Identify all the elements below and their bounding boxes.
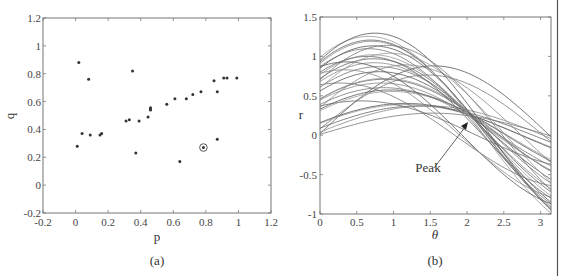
x-tick-label: 1 <box>391 216 397 228</box>
data-point <box>77 61 80 64</box>
data-point <box>199 90 202 93</box>
data-point <box>222 76 225 79</box>
data-point <box>191 93 194 96</box>
y-tick-label: 1 <box>312 50 318 62</box>
line-plot-b: 00.511.522.53-1-0.500.511.5 Peak θ r (b) <box>299 11 551 268</box>
plot-area-a <box>43 18 271 213</box>
caption-b: (b) <box>427 253 442 268</box>
data-point <box>178 160 181 163</box>
x-tick-label: 0.5 <box>350 216 364 228</box>
data-point <box>125 120 128 123</box>
x-tick-label: 1.2 <box>264 216 278 228</box>
x-tick-label: 0.8 <box>199 216 213 228</box>
y-tick-label: 0.8 <box>27 68 41 80</box>
y-tick-label: -1 <box>308 208 317 220</box>
x-tick-label: 3 <box>538 216 544 228</box>
data-point <box>165 103 168 106</box>
y-tick-label: 1.5 <box>303 11 317 23</box>
y-tick-label: 0.2 <box>27 151 41 163</box>
data-point <box>138 120 141 123</box>
x-tick-label: 0.2 <box>101 216 115 228</box>
peak-label: Peak <box>415 160 441 175</box>
data-point <box>87 78 90 81</box>
y-tick-label: 0.4 <box>27 123 41 135</box>
y-tick-label: -0.5 <box>300 169 318 181</box>
data-point <box>134 152 137 155</box>
data-point <box>173 97 176 100</box>
scatter-plot-a: -0.200.20.40.60.811.2-0.200.20.40.60.811… <box>2 12 278 268</box>
x-tick-label: 0.4 <box>134 216 148 228</box>
y-axis-label-b: r <box>299 107 304 122</box>
x-tick-label: 1 <box>236 216 242 228</box>
y-axis-label-a: q <box>2 112 17 119</box>
y-tick-label: 0.6 <box>27 96 41 108</box>
data-point <box>128 118 131 121</box>
data-point <box>147 115 150 118</box>
x-tick-label: 0.6 <box>166 216 180 228</box>
y-tick-label: 1 <box>36 40 42 52</box>
data-point <box>235 76 238 79</box>
figure: -0.200.20.40.60.811.2-0.200.20.40.60.811… <box>0 0 568 276</box>
y-tick-label: 0 <box>312 129 318 141</box>
highlighted-point <box>202 146 205 149</box>
x-tick-label: 0 <box>317 216 323 228</box>
y-tick-label: 0 <box>36 179 42 191</box>
x-axis-label-b: θ <box>432 227 439 242</box>
data-point <box>81 132 84 135</box>
data-point <box>100 132 103 135</box>
data-point <box>89 134 92 137</box>
caption-a: (a) <box>150 253 164 268</box>
data-point <box>149 108 152 111</box>
data-point <box>76 145 79 148</box>
data-point <box>131 69 134 72</box>
y-tick-label: 1.2 <box>27 12 41 24</box>
data-point <box>213 79 216 82</box>
data-point <box>216 90 219 93</box>
data-point <box>185 97 188 100</box>
x-tick-label: 2 <box>464 216 470 228</box>
x-tick-label: 0 <box>73 216 79 228</box>
y-tick-label: -0.2 <box>24 207 41 219</box>
x-tick-label: 2.5 <box>497 216 511 228</box>
x-axis-label-a: p <box>154 229 161 244</box>
y-tick-label: 0.5 <box>303 90 317 102</box>
data-point <box>226 76 229 79</box>
data-point <box>216 138 219 141</box>
